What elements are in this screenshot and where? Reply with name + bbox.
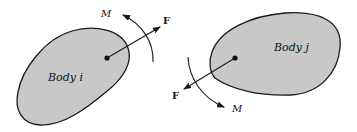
diagram-svg: Body i F M Body j F M (0, 0, 357, 132)
body-j: Body j F M (172, 13, 340, 114)
body-i-moment-label: M (100, 8, 112, 19)
body-j-force-label: F (172, 90, 179, 101)
body-i-force-label: F (163, 15, 170, 26)
body-j-label: Body j (273, 41, 309, 54)
body-i-label: Body i (47, 71, 83, 84)
body-j-moment-label: M (231, 103, 243, 114)
body-i: Body i F M (17, 8, 170, 125)
diagram-canvas: Body i F M Body j F M (0, 0, 357, 132)
